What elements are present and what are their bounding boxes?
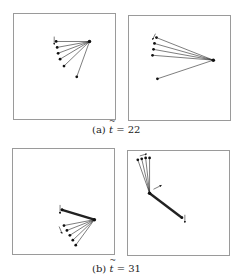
joint-dot (61, 208, 64, 211)
caption-a-value: = 22 (116, 124, 140, 135)
joint-dot (152, 48, 155, 51)
panel-a-left (13, 13, 116, 120)
caption-a-var: t (109, 124, 113, 135)
joint-dot (75, 75, 78, 78)
joint-dot (71, 239, 74, 242)
joint-dot (66, 229, 69, 232)
caption-b-label: (b) (92, 263, 106, 274)
joint-dot (74, 244, 77, 247)
joint-dot (136, 158, 139, 161)
joint-dot (56, 46, 59, 49)
joint-dot (140, 158, 143, 161)
arrow-icon (140, 154, 147, 156)
joint-dot (88, 40, 92, 44)
mechanism-drawing (129, 16, 230, 120)
joint-dot (151, 54, 154, 57)
joint-dot (55, 40, 58, 43)
caption-a: (a) t = 22 (92, 124, 140, 135)
caption-a-label: (a) (92, 124, 106, 135)
panel-b-left (12, 148, 115, 255)
joint-dot (144, 157, 147, 160)
joint-dot (59, 58, 62, 61)
arrow-icon (153, 34, 156, 40)
mechanism-drawing (128, 151, 229, 255)
joint-dot (155, 36, 158, 39)
joint-dot (156, 77, 159, 80)
joint-dot (69, 234, 72, 237)
mechanism-drawing (14, 14, 115, 119)
joint-dot (63, 65, 66, 68)
joint-dot (63, 224, 66, 227)
caption-b-var: t (109, 263, 113, 274)
caption-b-value: = 31 (117, 263, 141, 274)
joint-dot (57, 52, 60, 55)
panel-b-right (127, 150, 230, 256)
joint-dot (93, 218, 97, 222)
mechanism-drawing (13, 149, 114, 254)
joint-dot (153, 42, 156, 45)
joint-dot (181, 216, 184, 219)
joint-dot (212, 58, 216, 62)
panel-a-right (128, 15, 231, 121)
joint-dot (148, 157, 151, 160)
arrow-icon (153, 185, 161, 189)
joint-dot (148, 191, 152, 195)
arrow-icon (59, 227, 62, 234)
caption-b: (b) t = 31 (92, 263, 141, 274)
